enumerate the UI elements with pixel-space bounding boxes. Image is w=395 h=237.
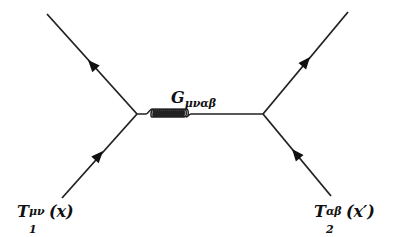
t1-superscript: μν xyxy=(29,205,45,218)
propagator-label: Gμναβ xyxy=(171,88,216,110)
source-label-t2: Tαβ2(x′) xyxy=(314,202,375,221)
gluon-propagator xyxy=(137,109,263,117)
t2-argument: (x′) xyxy=(346,202,375,221)
t2-symbol: T xyxy=(314,202,326,221)
source-label-t1: Tμν1(x) xyxy=(17,202,74,221)
propagator-symbol: G xyxy=(171,88,185,107)
t1-symbol: T xyxy=(17,202,29,221)
t2-superscript: αβ xyxy=(326,205,342,218)
propagator-indices: μναβ xyxy=(185,97,216,110)
t2-subscript: 2 xyxy=(326,223,334,236)
t1-argument: (x) xyxy=(49,202,74,221)
t1-subscript: 1 xyxy=(29,223,37,236)
